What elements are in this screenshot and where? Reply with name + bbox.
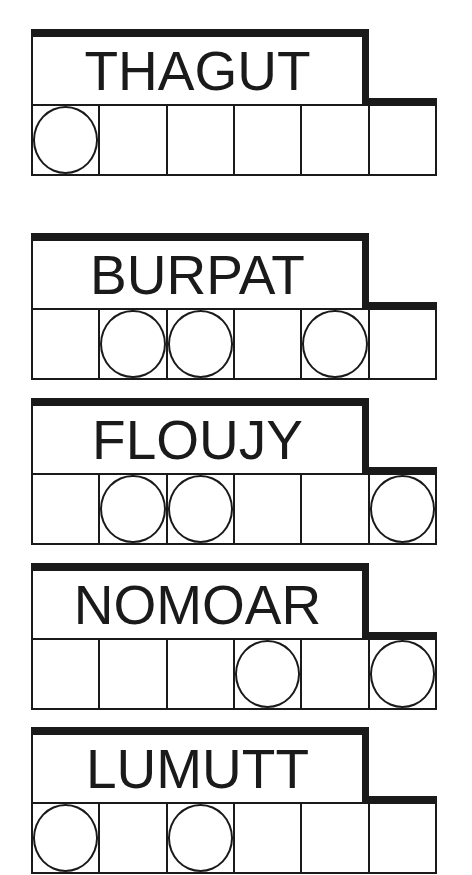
answer-cells bbox=[31, 473, 437, 545]
answer-cell-circled[interactable] bbox=[370, 475, 437, 543]
answer-cell[interactable] bbox=[168, 106, 235, 174]
answer-cell-circled[interactable] bbox=[302, 310, 369, 378]
answer-cell[interactable] bbox=[235, 804, 302, 872]
answer-cell[interactable] bbox=[302, 106, 369, 174]
answer-cell[interactable] bbox=[302, 804, 369, 872]
answer-cell[interactable] bbox=[33, 475, 100, 543]
scrambled-word: THAGUT bbox=[33, 41, 362, 101]
answer-cell[interactable] bbox=[370, 106, 437, 174]
answer-cells bbox=[31, 638, 437, 710]
puzzle-1: THAGUT bbox=[31, 29, 437, 177]
scrambled-word: BURPAT bbox=[33, 245, 362, 305]
scrambled-word-box: THAGUT bbox=[31, 29, 369, 104]
answer-cell[interactable] bbox=[168, 640, 235, 708]
answer-cell-circled[interactable] bbox=[168, 804, 235, 872]
scrambled-word-box: FLOUJY bbox=[31, 398, 369, 473]
answer-cell[interactable] bbox=[100, 106, 167, 174]
answer-cell[interactable] bbox=[235, 106, 302, 174]
puzzle-5: LUMUTT bbox=[31, 727, 437, 875]
answer-cell-circled[interactable] bbox=[370, 640, 437, 708]
puzzle-2: BURPAT bbox=[31, 233, 437, 381]
answer-cell[interactable] bbox=[33, 640, 100, 708]
scrambled-word-box: BURPAT bbox=[31, 233, 369, 308]
scrambled-word: FLOUJY bbox=[33, 410, 362, 470]
scrambled-word-box: NOMOAR bbox=[31, 563, 369, 638]
answer-cell-circled[interactable] bbox=[235, 640, 302, 708]
answer-cells bbox=[31, 104, 437, 176]
answer-cell[interactable] bbox=[302, 640, 369, 708]
answer-cell[interactable] bbox=[100, 640, 167, 708]
answer-cell[interactable] bbox=[370, 804, 437, 872]
answer-cell[interactable] bbox=[302, 475, 369, 543]
answer-cell-circled[interactable] bbox=[100, 475, 167, 543]
scrambled-word-box: LUMUTT bbox=[31, 727, 369, 802]
answer-cell-circled[interactable] bbox=[168, 310, 235, 378]
answer-cell[interactable] bbox=[370, 310, 437, 378]
answer-cell-circled[interactable] bbox=[100, 310, 167, 378]
answer-cell[interactable] bbox=[100, 804, 167, 872]
answer-cell-circled[interactable] bbox=[33, 106, 100, 174]
answer-cells bbox=[31, 308, 437, 380]
answer-cell[interactable] bbox=[33, 310, 100, 378]
puzzle-3: FLOUJY bbox=[31, 398, 437, 546]
answer-cell-circled[interactable] bbox=[33, 804, 100, 872]
puzzle-4: NOMOAR bbox=[31, 563, 437, 711]
scrambled-word: LUMUTT bbox=[33, 739, 362, 799]
scrambled-word: NOMOAR bbox=[33, 575, 362, 635]
answer-cell[interactable] bbox=[235, 310, 302, 378]
answer-cells bbox=[31, 802, 437, 874]
answer-cell[interactable] bbox=[235, 475, 302, 543]
answer-cell-circled[interactable] bbox=[168, 475, 235, 543]
